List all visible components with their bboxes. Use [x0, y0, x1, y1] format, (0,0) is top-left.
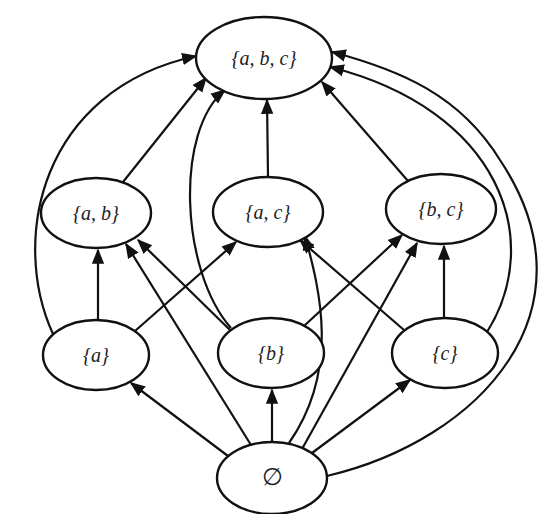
node-label: {a} — [83, 344, 109, 366]
node-ac: {a, c} — [213, 177, 323, 247]
node-label: ∅ — [262, 464, 283, 490]
edge-ac-to-abc — [267, 100, 268, 177]
node-empty: ∅ — [217, 442, 327, 514]
node-ab: {a, b} — [41, 178, 151, 248]
edge-empty-to-a — [131, 383, 228, 456]
edge-b-to-bc — [304, 235, 402, 326]
node-b: {b} — [218, 318, 324, 388]
node-label: {a, b} — [73, 202, 119, 224]
node-label: {a, b, c} — [232, 47, 297, 69]
node-a: {a} — [43, 320, 149, 390]
node-bc: {b, c} — [386, 174, 496, 244]
node-abc: {a, b, c} — [196, 17, 332, 99]
node-label: {c} — [433, 342, 458, 364]
nodes-layer: {a, b, c}{a, b}{a, c}{b, c}{a}{b}{c}∅ — [41, 17, 498, 514]
edges-layer — [35, 52, 537, 476]
edge-bc-to-abc — [322, 82, 408, 181]
node-label: {a, c} — [246, 201, 291, 223]
node-label: {b} — [258, 342, 284, 364]
node-label: {b, c} — [419, 198, 464, 220]
subset-lattice-diagram: {a, b, c}{a, b}{a, c}{b, c}{a}{b}{c}∅ — [0, 0, 557, 514]
node-c: {c} — [392, 318, 498, 388]
edge-ab-to-abc — [123, 78, 206, 182]
edge-empty-to-abc — [327, 52, 537, 476]
edge-empty-to-c — [312, 380, 410, 453]
